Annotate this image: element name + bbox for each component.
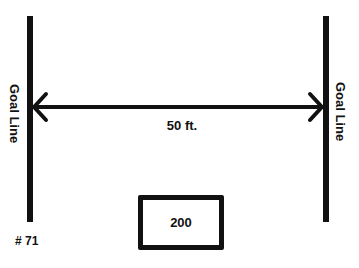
distance-label: 50 ft.: [152, 118, 212, 133]
score-box-value: 200: [170, 215, 192, 230]
diagram-id-label: # 71: [15, 234, 38, 248]
score-box: 200: [138, 195, 224, 250]
